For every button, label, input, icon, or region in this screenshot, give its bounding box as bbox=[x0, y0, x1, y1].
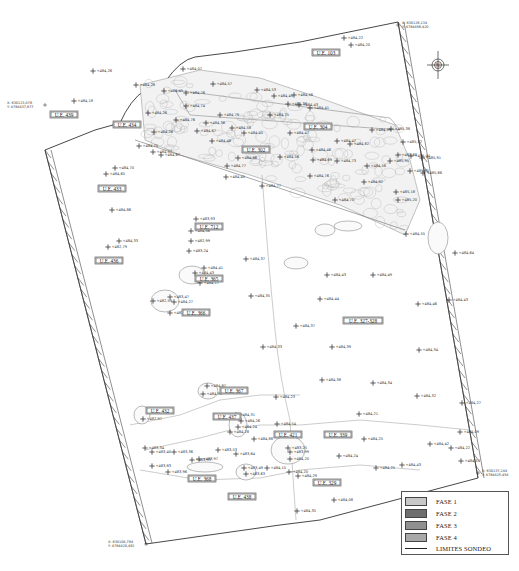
svg-text:U.E. 437: U.E. 437 bbox=[218, 414, 237, 420]
elevation-point: +484,22 bbox=[448, 445, 470, 451]
elevation-point: +484,20 bbox=[348, 42, 371, 48]
ue-label-ue-365: U.E. 365 bbox=[195, 275, 223, 282]
elevation-point: +484,34 bbox=[370, 380, 393, 386]
svg-text:+484,47: +484,47 bbox=[341, 139, 357, 143]
svg-text:+484,29: +484,29 bbox=[302, 474, 318, 478]
svg-text:+484,88: +484,88 bbox=[258, 437, 274, 441]
svg-text:+482,59: +482,59 bbox=[157, 299, 173, 303]
svg-text:U.E. 302: U.E. 302 bbox=[247, 147, 266, 153]
svg-text:+484,08: +484,08 bbox=[338, 498, 354, 502]
elevation-point: +484,70 bbox=[112, 165, 135, 171]
legend: FASE 1 FASE 2 FASE 3 FASE 4 LIMITES SOND… bbox=[401, 491, 509, 555]
svg-text:+484,76: +484,76 bbox=[190, 91, 206, 95]
ue-label-ue-368: U.E. 368 bbox=[188, 475, 216, 482]
svg-text:U.E. 436: U.E. 436 bbox=[100, 258, 119, 264]
svg-text:+484,45: +484,45 bbox=[278, 94, 294, 98]
svg-text:+484,43: +484,43 bbox=[331, 273, 347, 277]
svg-text:+484,43: +484,43 bbox=[406, 463, 422, 467]
svg-text:+484,65: +484,65 bbox=[110, 172, 126, 176]
svg-text:U.E. 304: U.E. 304 bbox=[309, 124, 328, 130]
svg-text:+484,76: +484,76 bbox=[180, 118, 196, 122]
svg-text:+484,45: +484,45 bbox=[248, 131, 264, 135]
svg-text:+483,99: +483,99 bbox=[294, 450, 310, 454]
elevation-point: +484,35 bbox=[294, 508, 316, 514]
elevation-point: +484,77 bbox=[259, 183, 281, 189]
svg-text:+484,41: +484,41 bbox=[314, 106, 330, 110]
svg-text:+484,28: +484,28 bbox=[234, 430, 250, 434]
svg-text:+483,96: +483,96 bbox=[172, 470, 188, 474]
elevation-point: +484,25 bbox=[373, 465, 395, 471]
svg-text:+484,42: +484,42 bbox=[434, 442, 450, 446]
svg-text:U.E. 712: U.E. 712 bbox=[200, 224, 219, 230]
elevation-point: +484,38 bbox=[319, 377, 342, 383]
svg-text:+485,38: +485,38 bbox=[395, 127, 411, 131]
svg-text:+484,45: +484,45 bbox=[230, 175, 246, 179]
elevation-point: +484,15 bbox=[264, 465, 286, 471]
legend-label: LIMITES SONDEO bbox=[436, 545, 491, 552]
svg-text:+484,43: +484,43 bbox=[453, 298, 469, 302]
svg-text:N: N bbox=[436, 62, 440, 68]
svg-text:+485,20: +485,20 bbox=[402, 198, 418, 202]
svg-text:+483,64: +483,64 bbox=[240, 452, 256, 456]
legend-label: FASE 2 bbox=[436, 510, 457, 517]
fase-3-swatch bbox=[405, 521, 427, 530]
svg-text:+484,33: +484,33 bbox=[267, 345, 283, 349]
svg-text:U.E. 434: U.E. 434 bbox=[118, 122, 137, 128]
svg-text:+484,58: +484,58 bbox=[236, 126, 252, 130]
svg-text:+484,69: +484,69 bbox=[317, 158, 333, 162]
ue-label-ue-432: U.E. 432 bbox=[146, 407, 174, 414]
svg-text:Y: 4764420,492: Y: 4764420,492 bbox=[108, 544, 135, 548]
fase-2-swatch bbox=[405, 509, 427, 518]
svg-text:+484,36: +484,36 bbox=[210, 121, 226, 125]
elevation-point: +484,57 bbox=[458, 458, 480, 464]
svg-text:+484,56: +484,56 bbox=[298, 93, 314, 97]
svg-text:+484,26: +484,26 bbox=[152, 111, 168, 115]
svg-text:+484,28: +484,28 bbox=[140, 83, 156, 87]
elevation-point: +484,33 bbox=[116, 238, 138, 244]
svg-text:+484,31: +484,31 bbox=[240, 413, 256, 417]
elevation-point: +484,27 bbox=[459, 400, 481, 406]
svg-text:U.E. 432: U.E. 432 bbox=[151, 408, 170, 414]
ue-label-ue-712: U.E. 712 bbox=[195, 223, 223, 230]
svg-text:+484,15: +484,15 bbox=[271, 466, 287, 470]
ue-label-ue-329: U.E. 329 bbox=[313, 479, 341, 486]
elevation-point: +484,45 bbox=[223, 174, 245, 180]
elevation-point: +484,08 bbox=[331, 497, 354, 503]
svg-text:+484,33: +484,33 bbox=[123, 239, 139, 243]
legend-label: FASE 4 bbox=[436, 534, 457, 541]
svg-text:+485,32: +485,32 bbox=[407, 140, 423, 144]
svg-text:Y: 4764456,420: Y: 4764456,420 bbox=[402, 25, 429, 29]
svg-text:+483,83: +483,83 bbox=[156, 464, 172, 468]
elevation-point: +484,49 bbox=[370, 272, 393, 278]
svg-text:+484,82: +484,82 bbox=[368, 180, 384, 184]
svg-text:+484,55: +484,55 bbox=[410, 232, 426, 236]
svg-text:+484,75: +484,75 bbox=[274, 113, 290, 117]
svg-text:+483,97: +483,97 bbox=[203, 457, 219, 461]
elevation-point: +483,96 bbox=[165, 469, 188, 475]
svg-text:+484,46: +484,46 bbox=[316, 148, 332, 152]
svg-text:Y: 4764425,454: Y: 4764425,454 bbox=[482, 473, 509, 477]
legend-item-fase-3: FASE 3 bbox=[405, 520, 457, 531]
legend-item-fase-2: FASE 2 bbox=[405, 508, 457, 519]
svg-text:+484,86: +484,86 bbox=[242, 156, 258, 160]
svg-text:+482,79: +482,79 bbox=[112, 245, 128, 249]
svg-text:U.E. 438: U.E. 438 bbox=[233, 494, 252, 500]
elevation-point: +484,32 bbox=[414, 393, 436, 399]
ue-label-ue-367: U.E. 367 bbox=[220, 387, 248, 394]
svg-text:+484,37: +484,37 bbox=[300, 324, 316, 328]
elevation-point: +484,43 bbox=[399, 462, 421, 468]
svg-text:+483,49: +483,49 bbox=[248, 466, 264, 470]
legend-item-fase-1: FASE 1 bbox=[405, 496, 457, 507]
svg-text:U.E. 329: U.E. 329 bbox=[318, 480, 337, 486]
svg-text:+484,27: +484,27 bbox=[466, 401, 482, 405]
fase-1-swatch bbox=[405, 497, 427, 506]
svg-text:U.E. 367: U.E. 367 bbox=[225, 388, 244, 394]
svg-text:+484,47: +484,47 bbox=[294, 131, 310, 135]
ue-label-ue-438: U.E. 438 bbox=[228, 493, 256, 500]
svg-text:+484,64: +484,64 bbox=[459, 251, 475, 255]
svg-text:+484,20: +484,20 bbox=[355, 43, 371, 47]
north-arrow-icon: N bbox=[427, 51, 449, 79]
limit-line-icon bbox=[405, 548, 427, 549]
svg-text:+484,53: +484,53 bbox=[261, 88, 277, 92]
svg-text:+484,43: +484,43 bbox=[199, 271, 215, 275]
